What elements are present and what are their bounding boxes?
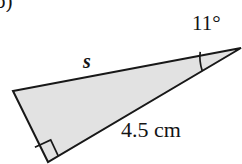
angle-measure-label: 11° bbox=[192, 13, 221, 34]
hypotenuse-length-label: s bbox=[83, 51, 91, 71]
part-label: b) bbox=[0, 0, 13, 12]
triangle-shape bbox=[13, 48, 241, 162]
base-length-label: 4.5 cm bbox=[121, 119, 181, 141]
geometry-figure: b) 11° s 4.5 cm bbox=[0, 0, 242, 164]
